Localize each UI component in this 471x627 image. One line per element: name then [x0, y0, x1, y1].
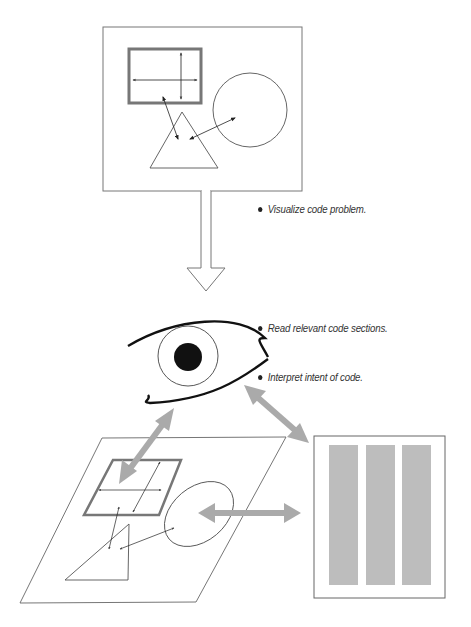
caption-read: Read relevant code sections. — [258, 322, 388, 334]
code-column-1 — [329, 445, 358, 585]
code-listing-page — [314, 436, 445, 598]
bullet-icon — [258, 326, 262, 331]
diagram-canvas — [0, 0, 471, 627]
bullet-icon — [258, 207, 262, 212]
code-column-2 — [366, 445, 395, 585]
bullet-icon — [258, 375, 262, 380]
code-column-3 — [402, 445, 431, 585]
caption-visualize: Visualize code problem. — [258, 203, 366, 215]
projected-model-panel — [20, 437, 286, 603]
down-arrow — [187, 191, 225, 291]
gray-arrow-model-code — [198, 503, 301, 523]
caption-interpret: Interpret intent of code. — [258, 371, 363, 383]
mental-model-panel — [103, 27, 302, 191]
gray-arrow-eye-code — [244, 385, 309, 443]
